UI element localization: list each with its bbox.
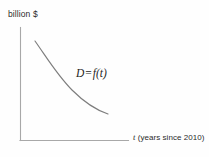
x-axis-variable: t <box>133 132 135 142</box>
curve-equation-label: D=f(t) <box>76 68 107 80</box>
x-axis-units: (years since 2010) <box>138 133 205 142</box>
x-axis-label: t (years since 2010) <box>133 133 204 142</box>
graph-figure: billion $ t (years since 2010) D=f(t) <box>0 0 209 157</box>
y-axis-label: billion $ <box>8 10 38 19</box>
curve-equation-equals: = <box>84 67 93 79</box>
curve-equation-rhs: f(t) <box>93 67 107 79</box>
